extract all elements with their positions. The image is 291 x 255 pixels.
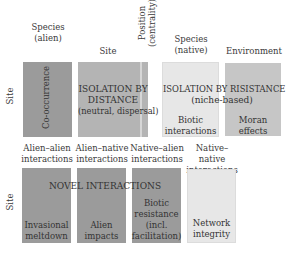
row-label-site-bottom-text: Site (5, 194, 15, 211)
header-species-native-line2: (native) (164, 45, 218, 56)
moran-effects-line2: effects (225, 126, 281, 137)
isolation-distance-line1: ISOLATION BY (78, 84, 148, 95)
invasional-meltdown-line1: Invasional (22, 220, 71, 231)
alien-impacts-label: Alien impacts (77, 220, 126, 242)
header-native-native-line1: Native–native (184, 143, 240, 165)
header-alien-native-line2: interactions (74, 154, 130, 165)
header-alien-alien-line1: Alien–alien (20, 143, 74, 154)
biotic-resistance-line2: resistance (130, 209, 183, 220)
cooccurrence-text: Co-occurrence (41, 66, 51, 129)
header-native-alien-line2: interactions (130, 154, 184, 165)
header-native-alien-line1: Native–alien (130, 143, 184, 154)
cooccurrence-label: Co-occurrence (41, 69, 53, 129)
header-species-alien-line1: Species (22, 22, 74, 33)
biotic-resistance-line3: (incl. (130, 220, 183, 231)
biotic-resistance-line4: facilitation) (130, 231, 183, 242)
biotic-resistance-label: Biotic resistance (incl. facilitation) (130, 198, 183, 242)
header-site-text: Site (80, 46, 136, 57)
isolation-distance-line3: (neutral, dispersal) (78, 106, 148, 117)
header-species-native-line1: Species (164, 34, 218, 45)
isolation-resistance-title: ISOLATION BY RISISTANCE (niche-based) (163, 84, 281, 106)
header-species-alien: Species (alien) (22, 22, 74, 44)
invasional-meltdown-line2: meltdown (22, 231, 71, 242)
header-alien-native-line1: Alien–native (74, 143, 130, 154)
biotic-interactions-line2: interactions (162, 126, 219, 137)
header-position-line1: Position (137, 0, 147, 49)
network-integrity-label: Network integrity (187, 218, 236, 240)
isolation-distance-line2: DISTANCE (78, 95, 148, 106)
header-native-alien: Native–alien interactions (130, 143, 184, 165)
header-species-native: Species (native) (164, 34, 218, 56)
header-alien-alien-line2: interactions (20, 154, 74, 165)
header-species-alien-line2: (alien) (22, 33, 74, 44)
biotic-interactions-line1: Biotic (162, 115, 219, 126)
row-label-site-top-text: Site (5, 88, 15, 105)
biotic-resistance-line1: Biotic (130, 198, 183, 209)
moran-effects-line1: Moran (225, 115, 281, 126)
novel-interactions-title: NOVEL INTERACTIONS (40, 181, 170, 192)
isolation-resistance-line1: ISOLATION BY RISISTANCE (163, 84, 281, 95)
isolation-distance-title: ISOLATION BY DISTANCE (neutral, dispersa… (78, 84, 148, 117)
moran-effects-label: Moran effects (225, 115, 281, 137)
novel-interactions-text: NOVEL INTERACTIONS (49, 181, 161, 191)
header-alien-native: Alien–native interactions (74, 143, 130, 165)
header-alien-alien: Alien–alien interactions (20, 143, 74, 165)
isolation-resistance-line2: (niche-based) (163, 95, 281, 106)
alien-impacts-line1: Alien (77, 220, 126, 231)
row-label-site-top: Site (5, 81, 17, 111)
header-site: Site (80, 46, 136, 57)
network-integrity-line2: integrity (187, 229, 236, 240)
network-integrity-line1: Network (187, 218, 236, 229)
biotic-interactions-label: Biotic interactions (162, 115, 219, 137)
header-environment-text: Environment (222, 46, 286, 57)
header-environment: Environment (222, 46, 286, 57)
header-position: Position (centrality) (137, 0, 159, 49)
header-position-line2: (centrality) (147, 0, 157, 49)
row-label-site-bottom: Site (5, 187, 17, 217)
invasional-meltdown-label: Invasional meltdown (22, 220, 71, 242)
alien-impacts-line2: impacts (77, 231, 126, 242)
